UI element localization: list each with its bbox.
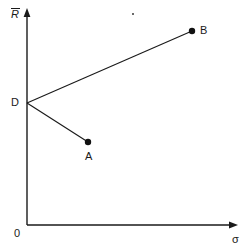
segment-d-to-b xyxy=(27,31,192,103)
y-axis-arrowhead-icon xyxy=(24,8,31,17)
point-a-marker xyxy=(85,139,91,145)
x-axis-arrowhead-icon xyxy=(229,222,238,229)
point-b-marker xyxy=(189,28,195,34)
stray-speck-artifact xyxy=(132,13,134,15)
origin-label: 0 xyxy=(14,228,20,239)
point-b-label: B xyxy=(200,25,207,36)
risk-return-diagram: R σ 0 D A B xyxy=(0,0,251,250)
diagram-canvas xyxy=(0,0,251,250)
point-a-label: A xyxy=(85,151,92,162)
y-axis-label: R xyxy=(11,8,19,20)
segment-d-to-a xyxy=(27,103,88,142)
x-axis-label: σ xyxy=(232,234,239,245)
y-axis-label-text: R xyxy=(11,8,19,20)
point-d-label: D xyxy=(11,97,19,108)
